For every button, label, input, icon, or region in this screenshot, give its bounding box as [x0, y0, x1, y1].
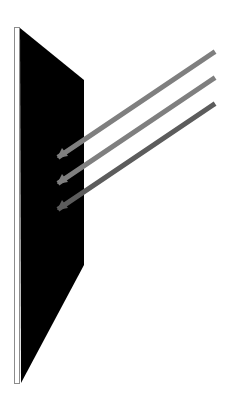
- diagram-svg: [0, 0, 232, 405]
- diagram-canvas: [0, 0, 232, 405]
- panel-edge: [15, 28, 20, 384]
- panel-face: [20, 28, 84, 383]
